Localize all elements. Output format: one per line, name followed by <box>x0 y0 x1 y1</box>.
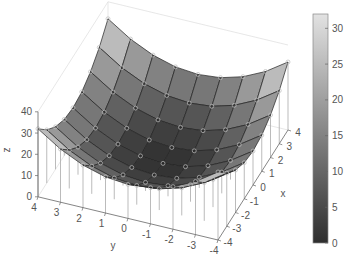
svg-text:0: 0 <box>121 223 127 234</box>
svg-text:0: 0 <box>332 238 338 249</box>
svg-text:30: 30 <box>332 23 344 34</box>
svg-text:y: y <box>111 240 116 251</box>
svg-text:30: 30 <box>21 128 33 139</box>
svg-text:25: 25 <box>332 59 344 70</box>
svg-text:-4: -4 <box>224 237 233 248</box>
svg-text:5: 5 <box>332 202 338 213</box>
svg-text:-2: -2 <box>165 234 174 245</box>
svg-text:1: 1 <box>99 218 105 229</box>
svg-text:4: 4 <box>31 202 37 213</box>
svg-text:-3: -3 <box>187 240 196 251</box>
colorbar: 051015202530 <box>313 14 344 249</box>
svg-text:2: 2 <box>76 213 82 224</box>
svg-text:z: z <box>1 148 12 153</box>
svg-text:0: 0 <box>26 191 32 202</box>
svg-text:2: 2 <box>278 155 284 166</box>
svg-text:-2: -2 <box>241 210 250 221</box>
svg-text:3: 3 <box>286 141 292 152</box>
svg-text:4: 4 <box>295 127 301 138</box>
svg-text:1: 1 <box>269 168 275 179</box>
svg-text:-3: -3 <box>232 223 241 234</box>
svg-text:x: x <box>281 188 286 199</box>
svg-text:40: 40 <box>21 106 33 117</box>
surface-plot: 43210-1-2-3-4y-4-3-2-101234x010203040z 0… <box>0 0 350 262</box>
svg-text:20: 20 <box>332 94 344 105</box>
svg-text:-1: -1 <box>250 196 259 207</box>
svg-text:10: 10 <box>332 166 344 177</box>
svg-text:3: 3 <box>54 207 60 218</box>
svg-text:-4: -4 <box>210 245 219 256</box>
svg-text:10: 10 <box>21 170 33 181</box>
svg-text:15: 15 <box>332 130 344 141</box>
svg-text:20: 20 <box>21 149 33 160</box>
surface-mesh <box>38 19 288 189</box>
svg-text:0: 0 <box>260 182 266 193</box>
svg-text:-1: -1 <box>142 229 151 240</box>
